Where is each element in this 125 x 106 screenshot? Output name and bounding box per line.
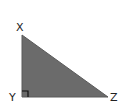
vertex-label-y: Y (8, 91, 16, 104)
vertex-label-z: Z (110, 91, 118, 104)
triangle-diagram: X Y Z (0, 0, 125, 106)
vertex-label-x: X (16, 21, 24, 34)
triangle-xyz (22, 35, 108, 97)
